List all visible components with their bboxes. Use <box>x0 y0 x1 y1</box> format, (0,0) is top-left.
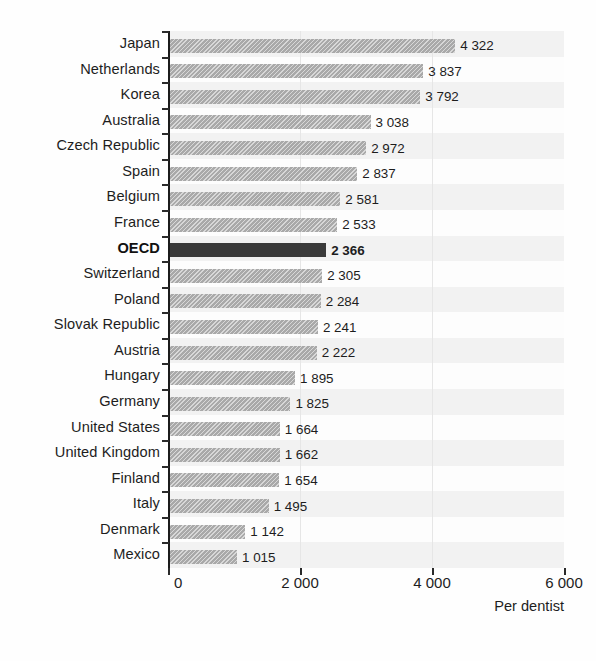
category-label: Germany <box>0 389 160 415</box>
bar <box>170 320 318 334</box>
y-axis-tick <box>162 210 169 212</box>
y-axis-tick <box>162 236 169 238</box>
bar <box>170 269 322 283</box>
bar-row: Belgium2 581 <box>0 184 596 210</box>
bar-row: Poland2 284 <box>0 287 596 313</box>
bar-row: Germany1 825 <box>0 389 596 415</box>
chart-page: Japan4 322Netherlands3 837Korea3 792Aust… <box>0 0 596 661</box>
category-label: United States <box>0 415 160 441</box>
bar-value-label: 1 664 <box>285 423 319 437</box>
category-label: Italy <box>0 491 160 517</box>
y-axis-tick <box>162 466 169 468</box>
category-label: Korea <box>0 82 160 108</box>
x-axis-tick <box>168 568 170 575</box>
category-label: Switzerland <box>0 261 160 287</box>
category-label: Netherlands <box>0 57 160 83</box>
y-axis-tick <box>162 287 169 289</box>
y-axis-tick <box>162 133 169 135</box>
y-axis-tick <box>162 108 169 110</box>
category-label: France <box>0 210 160 236</box>
bar <box>170 64 423 78</box>
bar-value-label: 1 142 <box>250 525 284 539</box>
bar-value-label: 2 581 <box>345 193 379 207</box>
category-label: Spain <box>0 159 160 185</box>
bar-value-label: 2 837 <box>362 167 396 181</box>
category-label: United Kingdom <box>0 440 160 466</box>
bar-value-label: 1 662 <box>285 448 319 462</box>
bar <box>170 167 357 181</box>
category-label: Slovak Republic <box>0 312 160 338</box>
y-axis-tick <box>162 82 169 84</box>
y-axis-tick <box>162 517 169 519</box>
category-label: Belgium <box>0 184 160 210</box>
bar-row: France2 533 <box>0 210 596 236</box>
bar <box>170 141 366 155</box>
bar <box>170 422 280 436</box>
bar-value-label: 1 495 <box>274 500 308 514</box>
bar <box>170 39 455 53</box>
bar <box>170 346 317 360</box>
bar-value-label: 1 015 <box>242 551 276 565</box>
bar <box>170 243 326 257</box>
bar-value-label: 2 241 <box>323 321 357 335</box>
bar-row: Italy1 495 <box>0 491 596 517</box>
bar-row: Switzerland2 305 <box>0 261 596 287</box>
bar-row: Korea3 792 <box>0 82 596 108</box>
bar <box>170 218 337 232</box>
category-label: Mexico <box>0 542 160 568</box>
bar-value-label: 1 825 <box>295 397 329 411</box>
bar-value-label: 2 533 <box>342 218 376 232</box>
bar-row: Hungary1 895 <box>0 363 596 389</box>
bar-row: Finland1 654 <box>0 466 596 492</box>
bar <box>170 294 321 308</box>
bar <box>170 90 420 104</box>
category-label: Finland <box>0 466 160 492</box>
bar <box>170 499 269 513</box>
bar-value-label: 3 837 <box>428 65 462 79</box>
bar-value-label: 3 792 <box>425 90 459 104</box>
bar-value-label: 2 222 <box>322 346 356 360</box>
bar-value-label: 2 972 <box>371 142 405 156</box>
y-axis-tick <box>162 57 169 59</box>
y-axis-tick <box>162 415 169 417</box>
y-axis-tick <box>162 312 169 314</box>
bar-row: Netherlands3 837 <box>0 57 596 83</box>
category-label: Hungary <box>0 363 160 389</box>
bar-row: OECD2 366 <box>0 236 596 262</box>
y-axis-tick <box>162 363 169 365</box>
x-axis-tick-label: 4 000 <box>413 574 451 591</box>
bar-value-label: 1 895 <box>300 372 334 386</box>
y-axis-tick <box>162 261 169 263</box>
y-axis-tick <box>162 159 169 161</box>
bar-row: Slovak Republic2 241 <box>0 312 596 338</box>
bar-row: Czech Republic2 972 <box>0 133 596 159</box>
bar-row: Denmark1 142 <box>0 517 596 543</box>
bar <box>170 371 295 385</box>
category-label: Japan <box>0 31 160 57</box>
bar-value-label: 3 038 <box>376 116 410 130</box>
bar-row: United States1 664 <box>0 415 596 441</box>
bar <box>170 550 237 564</box>
category-label: Poland <box>0 287 160 313</box>
y-axis-tick <box>162 31 169 33</box>
y-axis-tick <box>162 542 169 544</box>
bar-value-label: 1 654 <box>284 474 318 488</box>
category-label: Denmark <box>0 517 160 543</box>
y-axis-tick <box>162 491 169 493</box>
bar-value-label: 2 284 <box>326 295 360 309</box>
bar-row: United Kingdom1 662 <box>0 440 596 466</box>
bar-row: Australia3 038 <box>0 108 596 134</box>
category-label: Australia <box>0 108 160 134</box>
bar-row: Mexico1 015 <box>0 542 596 568</box>
category-label: Czech Republic <box>0 133 160 159</box>
y-axis-tick <box>162 389 169 391</box>
bar-row: Spain2 837 <box>0 159 596 185</box>
bar <box>170 192 340 206</box>
x-axis-tick-label: 0 <box>174 574 182 591</box>
bar-row: Japan4 322 <box>0 31 596 57</box>
bar-value-label: 4 322 <box>460 39 494 53</box>
bar <box>170 448 280 462</box>
x-axis-tick-label: 6 000 <box>545 574 583 591</box>
bar <box>170 115 371 129</box>
y-axis-tick <box>162 338 169 340</box>
